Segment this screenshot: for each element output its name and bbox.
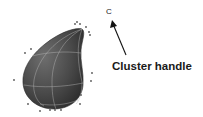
teardrop-illustration xyxy=(0,0,203,117)
diagram-canvas: C Cluster handle xyxy=(0,0,203,117)
cluster-handle-marker: C xyxy=(106,7,112,16)
arrow-head-icon xyxy=(110,20,117,28)
cluster-handle-label: Cluster handle xyxy=(112,60,192,72)
arrow-line xyxy=(113,24,126,55)
